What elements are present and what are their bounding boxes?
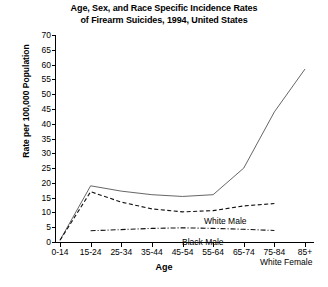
x-tick-label: 25-34 [110,248,132,257]
series-line-white-female [91,228,275,231]
y-tick-label: 10 [42,208,51,217]
plot-area: 0510152025303540455055606570 0-1415-2425… [56,35,313,242]
series-label-white-male: White Male [204,217,247,226]
y-tick-label: 65 [42,46,51,55]
y-axis-title: Rate per 100,000 Population [21,21,31,181]
x-tick-label: 15-24 [80,248,102,257]
y-tick-label: 15 [42,194,51,203]
y-tick-label: 30 [42,149,51,158]
x-tick-label: 75-84 [264,248,286,257]
chart-figure: Age, Sex, and Race Specific Incidence Ra… [0,0,328,287]
y-tick-label: 25 [42,164,51,173]
x-tick-label: 55-64 [202,248,224,257]
chart-title: Age, Sex, and Race Specific Incidence Ra… [0,3,328,26]
y-tick-label: 40 [42,120,51,129]
series-label-black-male: Black Male [182,238,224,247]
chart-title-line-2: of Firearm Suicides, 1994, United States [0,15,328,27]
x-tick-label: 65-74 [233,248,255,257]
x-tick-label: 0-14 [51,248,68,257]
y-tick-mark [52,242,56,243]
series-line-white-male [60,69,305,240]
series-lines [56,35,313,242]
x-tick-label: 45-54 [172,248,194,257]
y-tick-label: 35 [42,135,51,144]
y-tick-label: 20 [42,179,51,188]
y-tick-label: 60 [42,61,51,70]
y-tick-label: 5 [46,223,51,232]
y-tick-label: 70 [42,31,51,40]
chart-title-line-1: Age, Sex, and Race Specific Incidence Ra… [0,3,328,15]
y-tick-label: 45 [42,105,51,114]
x-tick-label: 35-44 [141,248,163,257]
y-tick-label: 0 [46,238,51,247]
series-label-white-female: White Female [260,258,312,267]
x-tick-label: 85+ [298,248,312,257]
y-tick-label: 50 [42,90,51,99]
y-tick-label: 55 [42,75,51,84]
